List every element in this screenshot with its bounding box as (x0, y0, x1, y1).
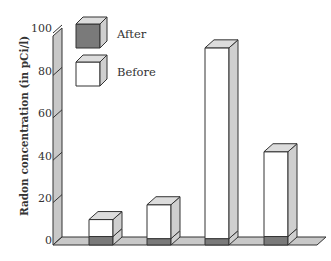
legend-before-swatch-front (76, 62, 100, 86)
bar-4-after-front (264, 237, 288, 245)
y-tick-20: 20 (26, 193, 52, 205)
bar-3-before-side (229, 40, 238, 239)
bar-4-before-side (288, 144, 297, 237)
bar-1-after-front (89, 237, 113, 245)
y-tick-80: 80 (26, 66, 52, 78)
bar-3-before-front (205, 48, 229, 239)
legend-after-swatch-front (76, 24, 100, 48)
radon-bar-chart: Radon concentration (in pCi/l) 0 20 40 6… (0, 0, 331, 261)
bar-1-before-front (89, 220, 113, 237)
bar-4-before-front (264, 152, 288, 237)
y-axis-wall (53, 28, 62, 245)
chart-canvas (0, 0, 331, 261)
y-tick-60: 60 (26, 108, 52, 120)
y-tick-0: 0 (26, 235, 52, 247)
legend-before-label: Before (117, 65, 156, 79)
legend-after-label: After (117, 27, 146, 41)
y-tick-100: 100 (26, 23, 52, 35)
y-tick-40: 40 (26, 151, 52, 163)
bar-2-before-front (147, 205, 171, 239)
y-axis-label: Radon concentration (in pCi/l) (18, 36, 30, 216)
bar-3-after-front (205, 239, 229, 245)
bar-2-after-front (147, 239, 171, 245)
